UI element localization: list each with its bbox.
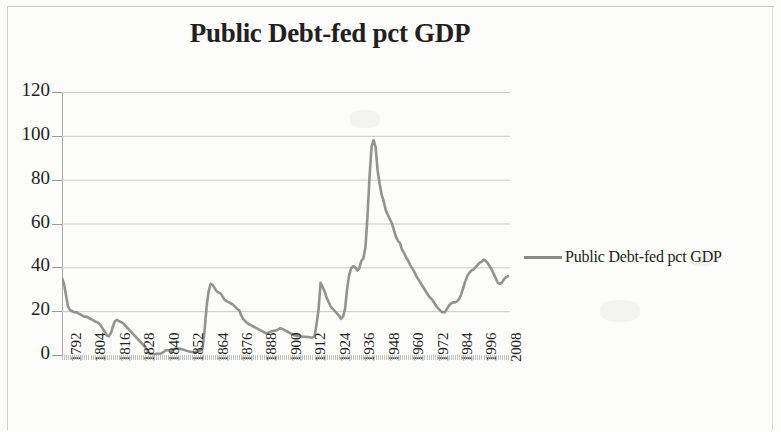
x-axis-minor-tick (168, 355, 169, 360)
x-axis-minor-tick (292, 355, 293, 360)
x-axis-minor-tick (380, 355, 381, 360)
x-axis-minor-tick (129, 355, 130, 360)
x-axis-minor-tick (148, 355, 149, 360)
x-axis-minor-tick (345, 355, 346, 360)
x-axis-minor-tick (288, 355, 289, 360)
x-axis-minor-tick (457, 355, 458, 360)
x-axis-minor-tick (76, 355, 77, 360)
x-axis-minor-tick (319, 355, 320, 360)
x-axis-minor-tick (176, 355, 177, 360)
x-axis-minor-tick (280, 355, 281, 360)
x-axis-minor-tick (164, 355, 165, 360)
x-axis-minor-tick (262, 355, 263, 360)
x-axis-minor-tick (266, 355, 267, 360)
x-axis-minor-tick (479, 355, 480, 360)
x-axis-minor-tick (253, 355, 254, 360)
x-axis-minor-tick (315, 355, 316, 360)
x-axis-minor-tick (384, 355, 385, 360)
x-axis-minor-tick (84, 355, 85, 360)
x-axis-minor-tick (306, 355, 307, 360)
x-axis-minor-tick (463, 355, 464, 360)
x-axis-minor-tick (247, 355, 248, 360)
x-axis-minor-tick (502, 355, 503, 360)
x-axis-minor-tick (404, 355, 405, 360)
x-axis-minor-tick (481, 355, 482, 360)
x-axis-minor-tick (439, 355, 440, 360)
x-axis-minor-tick (310, 355, 311, 360)
x-axis-minor-tick (312, 355, 313, 360)
y-axis-tick-mark (52, 267, 62, 268)
x-axis-minor-tick (198, 355, 199, 360)
x-axis-minor-tick (349, 355, 350, 360)
x-axis-minor-tick (62, 355, 63, 360)
x-axis-minor-tick (424, 355, 425, 360)
x-axis-minor-tick (388, 355, 389, 360)
x-axis-minor-tick (308, 355, 309, 360)
x-axis-minor-tick (386, 355, 387, 360)
x-axis-minor-tick (156, 355, 157, 360)
x-axis-minor-tick (477, 355, 478, 360)
x-axis-minor-tick (337, 355, 338, 360)
x-axis-minor-tick (390, 355, 391, 360)
x-axis-minor-tick (152, 355, 153, 360)
x-axis-minor-tick (490, 355, 491, 360)
x-axis-minor-tick (172, 355, 173, 360)
y-axis-tick-mark (52, 180, 62, 181)
x-axis-minor-tick (469, 355, 470, 360)
x-axis-minor-tick (245, 355, 246, 360)
x-axis-minor-tick (486, 355, 487, 360)
x-axis-minor-tick (323, 355, 324, 360)
x-axis-minor-tick (215, 355, 216, 360)
scanned-page: Public Debt-fed pct GDP 020406080100120 … (0, 0, 781, 432)
x-axis-minor-tick (143, 355, 144, 360)
x-axis-minor-tick (229, 355, 230, 360)
x-axis-minor-tick (461, 355, 462, 360)
x-axis-minor-tick (150, 355, 151, 360)
x-axis-minor-tick (302, 355, 303, 360)
x-axis-minor-tick (506, 355, 507, 360)
x-axis-minor-tick (317, 355, 318, 360)
x-axis-minor-tick (286, 355, 287, 360)
x-axis-minor-tick (186, 355, 187, 360)
legend-item-label: Public Debt-fed pct GDP (565, 248, 722, 266)
x-axis-minor-tick (82, 355, 83, 360)
y-axis-tick-mark (52, 136, 62, 137)
x-axis-minor-tick (95, 355, 96, 360)
x-axis-minor-tick (231, 355, 232, 360)
x-axis-minor-tick (66, 355, 67, 360)
x-axis-minor-tick (400, 355, 401, 360)
x-axis-minor-tick (270, 355, 271, 360)
x-axis-minor-tick (508, 355, 509, 360)
x-axis-minor-tick (115, 355, 116, 360)
x-axis-minor-tick (137, 355, 138, 360)
x-axis-minor-tick (327, 355, 328, 360)
x-axis-minor-tick (473, 355, 474, 360)
x-axis-minor-tick (451, 355, 452, 360)
x-axis-minor-tick (443, 355, 444, 360)
x-axis-minor-tick (347, 355, 348, 360)
y-axis-tick-mark (52, 92, 62, 93)
x-axis-minor-tick (341, 355, 342, 360)
x-axis-minor-tick (113, 355, 114, 360)
x-axis-minor-tick (227, 355, 228, 360)
x-axis-minor-tick (365, 355, 366, 360)
x-axis-minor-tick (78, 355, 79, 360)
x-axis-minor-tick (135, 355, 136, 360)
x-axis-minor-tick (396, 355, 397, 360)
x-axis-minor-tick (225, 355, 226, 360)
x-axis-minor-tick (394, 355, 395, 360)
x-axis-minor-tick (449, 355, 450, 360)
x-axis-minor-tick (127, 355, 128, 360)
x-axis-minor-tick (251, 355, 252, 360)
x-axis-minor-tick (243, 355, 244, 360)
x-axis-minor-tick (298, 355, 299, 360)
x-axis-minor-tick (119, 355, 120, 360)
x-axis-minor-tick (117, 355, 118, 360)
chart-legend: Public Debt-fed pct GDP (524, 248, 722, 266)
x-axis-minor-tick (190, 355, 191, 360)
x-axis-minor-tick (441, 355, 442, 360)
x-axis-minor-tick (131, 355, 132, 360)
x-axis-minor-tick (363, 355, 364, 360)
x-axis-minor-tick (141, 355, 142, 360)
x-axis-minor-tick (398, 355, 399, 360)
